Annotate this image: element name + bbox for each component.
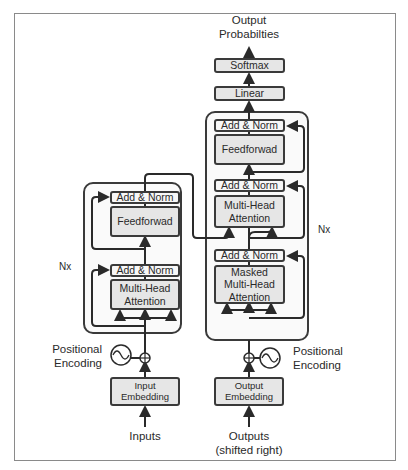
encoder-add-norm-bottom-label: Add & Norm bbox=[116, 264, 173, 276]
encoder-mha-label-line2: Attention bbox=[124, 295, 165, 307]
encoder-add-norm-top-label: Add & Norm bbox=[116, 191, 173, 203]
encoder-mha-label-line1: Multi-Head bbox=[120, 282, 171, 294]
decoder-add-norm-mid-label: Add & Norm bbox=[221, 179, 278, 191]
decoder-add-norm-top-label: Add & Norm bbox=[221, 119, 278, 131]
encoder-add-norm-bottom: Add & Norm bbox=[110, 264, 180, 277]
output-embedding-label-line2: Embedding bbox=[225, 392, 273, 403]
linear-label: Linear bbox=[235, 87, 264, 99]
encoder-feedforward-label: Feedforwad bbox=[117, 215, 172, 227]
softmax-label: Softmax bbox=[230, 59, 269, 71]
encoder-nx-label: Nx bbox=[59, 261, 71, 272]
encoder-feedforward-box: Feedforwad bbox=[110, 206, 180, 237]
output-probabilities-label: Output Probabilties bbox=[199, 14, 299, 42]
masked-mha-label-line3: Attention bbox=[229, 291, 270, 303]
decoder-add-norm-bottom: Add & Norm bbox=[214, 249, 285, 262]
softmax-box: Softmax bbox=[214, 58, 285, 73]
decoder-mha-box: Multi-Head Attention bbox=[214, 195, 285, 228]
encoder-mha-box: Multi-Head Attention bbox=[110, 279, 180, 310]
encoder-pos-enc-line1: Positional bbox=[40, 343, 102, 357]
output-embedding-label-line1: Output bbox=[235, 381, 264, 392]
decoder-add-norm-bottom-label: Add & Norm bbox=[221, 249, 278, 261]
decoder-add-norm-top: Add & Norm bbox=[214, 119, 285, 132]
decoder-feedforward-label: Feedforwad bbox=[222, 143, 277, 155]
masked-mha-label-line2: Multi-Head bbox=[224, 278, 275, 290]
outputs-label-line2: (shifted right) bbox=[199, 444, 299, 458]
encoder-add-norm-top: Add & Norm bbox=[110, 191, 180, 204]
encoder-positional-encoding-label: Positional Encoding bbox=[40, 343, 102, 371]
decoder-mha-label-line2: Attention bbox=[229, 212, 270, 224]
decoder-mha-label-line1: Multi-Head bbox=[224, 199, 275, 211]
linear-box: Linear bbox=[214, 86, 285, 101]
decoder-positional-encoding-label: Positional Encoding bbox=[293, 345, 363, 373]
input-embedding-label-line1: Input bbox=[134, 381, 155, 392]
decoder-pos-enc-line1: Positional bbox=[293, 345, 363, 359]
output-label-line1: Output bbox=[199, 14, 299, 28]
decoder-feedforward-box: Feedforwad bbox=[214, 134, 285, 165]
input-embedding-box: Input Embedding bbox=[110, 377, 180, 406]
output-embedding-box: Output Embedding bbox=[214, 377, 284, 406]
decoder-nx-label: Nx bbox=[318, 224, 330, 235]
decoder-add-norm-mid: Add & Norm bbox=[214, 179, 285, 192]
output-label-line2: Probabilties bbox=[199, 28, 299, 42]
decoder-pos-enc-line2: Encoding bbox=[293, 359, 363, 373]
inputs-label: Inputs bbox=[110, 430, 180, 444]
input-embedding-label-line2: Embedding bbox=[121, 392, 169, 403]
decoder-masked-mha-box: Masked Multi-Head Attention bbox=[214, 265, 285, 304]
outputs-label-line1: Outputs bbox=[199, 430, 299, 444]
masked-mha-label-line1: Masked bbox=[231, 266, 268, 278]
outputs-label: Outputs (shifted right) bbox=[199, 430, 299, 458]
connection-wires bbox=[0, 0, 408, 470]
encoder-pos-enc-line2: Encoding bbox=[40, 357, 102, 371]
